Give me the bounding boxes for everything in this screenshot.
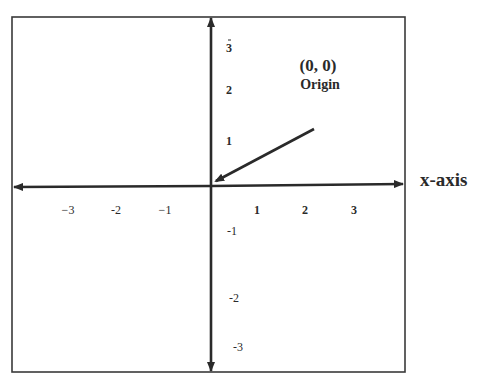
y-tick-label: -1: [227, 224, 237, 238]
coordinate-plane: −3 -2 −1 1 2 3 3 2 1 -1 -2 -3 (0, 0) Ori…: [0, 0, 480, 381]
y-tick-label: 2: [226, 83, 232, 97]
x-axis-title: x-axis: [420, 169, 468, 190]
y-tick-label: -3: [233, 340, 243, 354]
x-tick-label: 2: [302, 203, 308, 217]
y-tick-label: -2: [229, 291, 239, 305]
x-tick-label: 1: [254, 203, 260, 217]
origin-caption-label: Origin: [300, 77, 340, 92]
plot-frame: [12, 17, 405, 372]
x-tick-label: −1: [159, 203, 172, 217]
y-tick-label: 3: [226, 41, 232, 55]
y-tick-label: 1: [226, 134, 232, 148]
x-axis-line-negative: [14, 186, 211, 187]
origin-coordinates-label: (0, 0): [300, 56, 337, 75]
x-tick-label: −3: [62, 203, 75, 217]
x-tick-label: -2: [111, 203, 121, 217]
x-tick-label: 3: [351, 203, 357, 217]
